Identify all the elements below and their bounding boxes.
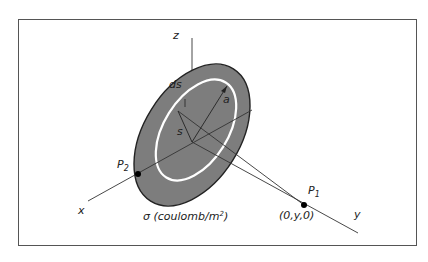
charged-disk <box>110 43 274 226</box>
sigma-label: σ (coulomb/m2) <box>143 210 228 223</box>
y-label: y <box>353 208 361 221</box>
z-label: z <box>172 29 179 42</box>
p2-label: P2 <box>117 158 129 173</box>
s-label: s <box>177 125 183 138</box>
x-label: x <box>77 204 85 217</box>
point-p1 <box>301 202 307 208</box>
ds-label: ds <box>169 78 182 91</box>
a-label: a <box>223 93 230 106</box>
p1-label: P1 <box>308 184 320 199</box>
point-p2 <box>135 171 141 177</box>
p1-coordinate: (0,y,0) <box>279 209 314 222</box>
charged-disk-diagram: z x y ds a s P2 P1 (0,y,0) σ (coulomb/m2… <box>0 0 428 262</box>
